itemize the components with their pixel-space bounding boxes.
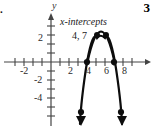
x-tick-label-4: 4 bbox=[86, 66, 91, 76]
point-vertex-left bbox=[94, 32, 100, 38]
y-axis-arrow bbox=[48, 13, 54, 20]
point-vertex-right bbox=[103, 32, 109, 38]
y-tick-label-minus2: -2 bbox=[34, 75, 42, 85]
x-intercepts-annotation-label: x-intercepts bbox=[60, 16, 107, 27]
point-left-endpoint bbox=[78, 109, 84, 115]
x-intercepts-annotation-value: 4, 7 bbox=[72, 30, 87, 41]
x-axis-arrow bbox=[145, 59, 151, 65]
y-tick-label-minus4: -4 bbox=[34, 93, 42, 103]
x-tick-label-6: 6 bbox=[104, 66, 109, 76]
y-tick-label-2: 2 bbox=[38, 33, 43, 43]
left-arrowhead bbox=[76, 116, 86, 126]
y-axis bbox=[47, 13, 55, 126]
y-axis-label: y bbox=[52, 1, 56, 11]
right-arrowhead bbox=[117, 116, 127, 126]
figure-container: . 3 bbox=[0, 0, 152, 127]
x-tick-label-minus2: -2 bbox=[20, 66, 28, 76]
point-right-endpoint bbox=[118, 109, 124, 115]
x-tick-label-8: 8 bbox=[122, 66, 127, 76]
x-tick-label-2: 2 bbox=[68, 66, 73, 76]
point-x-intercept-7 bbox=[111, 59, 117, 65]
